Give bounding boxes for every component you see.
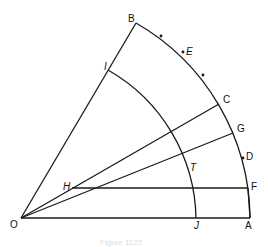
label-F: F <box>251 181 257 192</box>
label-C: C <box>223 94 230 105</box>
tick-mark-2 <box>202 74 204 76</box>
label-T: T <box>190 162 197 173</box>
tick-mark-1 <box>160 35 162 37</box>
segment-OG <box>21 133 233 218</box>
label-A: A <box>245 220 252 231</box>
label-G: G <box>237 123 245 134</box>
tick-mark-D <box>242 157 244 159</box>
label-I: I <box>104 61 107 72</box>
figure-caption: Figure 1122 <box>100 238 143 247</box>
inner-arc-IJ <box>108 70 196 218</box>
label-O: O <box>10 219 18 230</box>
segment-OB <box>21 23 136 218</box>
label-D: D <box>246 151 253 162</box>
label-E: E <box>186 46 193 57</box>
label-B: B <box>128 13 135 24</box>
segment-OC <box>21 104 219 218</box>
label-H: H <box>63 181 71 192</box>
geometry-diagram: B E I C G D T H F O J A Figure 1122 <box>0 0 268 247</box>
tick-mark-E <box>182 51 184 53</box>
label-J: J <box>193 220 200 231</box>
